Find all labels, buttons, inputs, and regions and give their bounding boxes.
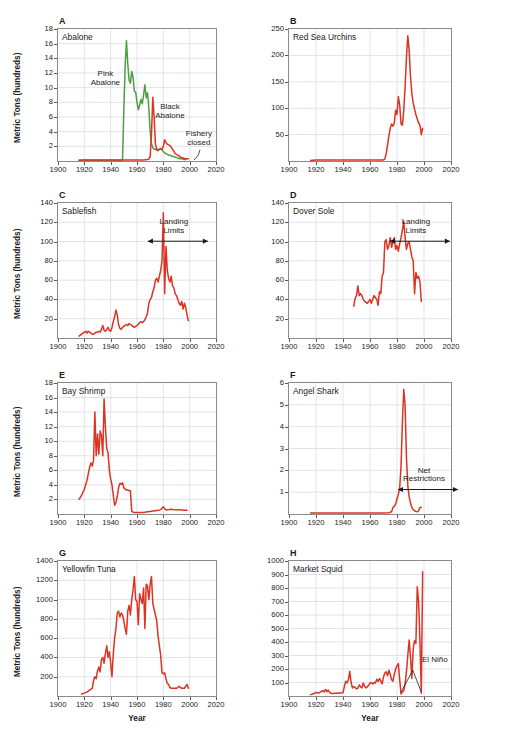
x-tick-label: 2020 bbox=[434, 343, 468, 351]
x-tick-mark bbox=[451, 162, 452, 165]
y-tick-mark bbox=[285, 405, 288, 406]
y-tick-label: 4 bbox=[19, 128, 53, 136]
x-tick-mark bbox=[424, 162, 425, 165]
x-tick-mark bbox=[289, 339, 290, 342]
y-tick-mark bbox=[285, 561, 288, 562]
x-tick-mark bbox=[289, 162, 290, 165]
x-axis-label: Year bbox=[288, 714, 452, 723]
y-tick-mark bbox=[285, 383, 288, 384]
y-tick-label: 200 bbox=[19, 673, 53, 681]
y-tick-mark bbox=[54, 117, 57, 118]
y-tick-mark bbox=[285, 588, 288, 589]
y-tick-mark bbox=[54, 58, 57, 59]
plot-area-b bbox=[288, 28, 452, 162]
y-tick-label: 100 bbox=[250, 679, 284, 687]
y-tick-label: 140 bbox=[250, 199, 284, 207]
x-tick-mark bbox=[316, 339, 317, 342]
plot-canvas-h bbox=[289, 561, 451, 696]
x-tick-mark bbox=[58, 697, 59, 700]
y-tick-label: 800 bbox=[19, 615, 53, 623]
annotation-label: El Niño bbox=[405, 656, 465, 665]
x-tick-mark bbox=[190, 339, 191, 342]
fisheries-landings-figure: AAbalone24681012141618190019201940196019… bbox=[0, 0, 511, 729]
y-tick-label: 400 bbox=[250, 638, 284, 646]
y-tick-label: 600 bbox=[19, 634, 53, 642]
x-tick-mark bbox=[163, 162, 164, 165]
y-tick-label: 500 bbox=[250, 625, 284, 633]
panel-letter-d: D bbox=[290, 190, 297, 200]
x-tick-mark bbox=[84, 339, 85, 342]
annotation-label: BlackAbalone bbox=[140, 103, 200, 121]
x-tick-mark bbox=[84, 162, 85, 165]
y-tick-label: 6 bbox=[19, 113, 53, 121]
y-tick-label: 12 bbox=[19, 69, 53, 77]
y-tick-label: 10 bbox=[19, 84, 53, 92]
y-tick-mark bbox=[54, 485, 57, 486]
x-tick-mark bbox=[190, 697, 191, 700]
panel-title-h: Market Squid bbox=[293, 564, 342, 574]
y-tick-mark bbox=[285, 108, 288, 109]
panel-letter-c: C bbox=[59, 190, 66, 200]
x-tick-mark bbox=[397, 515, 398, 518]
series-line bbox=[311, 572, 423, 695]
y-tick-mark bbox=[54, 102, 57, 103]
y-tick-label: 600 bbox=[250, 611, 284, 619]
x-tick-mark bbox=[190, 515, 191, 518]
x-tick-mark bbox=[216, 162, 217, 165]
y-tick-mark bbox=[285, 242, 288, 243]
x-tick-mark bbox=[316, 162, 317, 165]
y-tick-label: 80 bbox=[19, 257, 53, 265]
y-tick-label: 3 bbox=[250, 445, 284, 453]
panel-title-e: Bay Shrimp bbox=[62, 386, 105, 396]
plot-canvas-e bbox=[58, 383, 216, 514]
plot-area-f bbox=[288, 382, 452, 515]
annotation-line: Restrictions bbox=[394, 475, 454, 484]
x-tick-mark bbox=[343, 339, 344, 342]
y-tick-label: 8 bbox=[19, 452, 53, 460]
y-tick-mark bbox=[285, 280, 288, 281]
y-tick-mark bbox=[285, 135, 288, 136]
y-tick-label: 40 bbox=[250, 295, 284, 303]
x-tick-mark bbox=[111, 515, 112, 518]
panel-letter-f: F bbox=[290, 370, 296, 380]
x-tick-mark bbox=[216, 697, 217, 700]
y-tick-mark bbox=[54, 73, 57, 74]
y-tick-mark bbox=[54, 319, 57, 320]
y-tick-label: 2 bbox=[19, 495, 53, 503]
panel-letter-h: H bbox=[290, 548, 297, 558]
annotation-line: El Niño bbox=[405, 656, 465, 665]
x-tick-label: 2020 bbox=[199, 343, 233, 351]
y-tick-label: 1 bbox=[250, 488, 284, 496]
y-tick-label: 20 bbox=[250, 315, 284, 323]
y-tick-label: 1400 bbox=[19, 557, 53, 565]
x-tick-mark bbox=[137, 697, 138, 700]
y-tick-mark bbox=[54, 132, 57, 133]
x-tick-mark bbox=[289, 697, 290, 700]
plot-area-h bbox=[288, 560, 452, 697]
annotation-label: LandingLimits bbox=[144, 218, 204, 236]
annotation-label: NetRestrictions bbox=[394, 467, 454, 485]
y-tick-label: 1200 bbox=[19, 576, 53, 584]
panel-title-c: Sablefish bbox=[62, 206, 96, 216]
y-tick-label: 200 bbox=[250, 51, 284, 59]
x-axis-label: Year bbox=[57, 714, 217, 723]
y-tick-label: 120 bbox=[250, 218, 284, 226]
panel-title-f: Angel Shark bbox=[293, 386, 339, 396]
y-tick-label: 5 bbox=[250, 401, 284, 409]
x-tick-mark bbox=[370, 515, 371, 518]
x-tick-mark bbox=[424, 339, 425, 342]
annotation-line: Limits bbox=[386, 227, 446, 236]
annotation-line: Limits bbox=[144, 227, 204, 236]
y-tick-label: 80 bbox=[250, 257, 284, 265]
annotation-line: closed bbox=[169, 139, 229, 148]
x-tick-mark bbox=[190, 162, 191, 165]
x-tick-label: 2020 bbox=[434, 519, 468, 527]
plot-area-g bbox=[57, 560, 217, 697]
y-tick-mark bbox=[285, 642, 288, 643]
y-tick-label: 800 bbox=[250, 584, 284, 592]
y-tick-label: 120 bbox=[19, 218, 53, 226]
x-tick-label: 2020 bbox=[434, 701, 468, 709]
y-tick-mark bbox=[285, 629, 288, 630]
y-tick-label: 10 bbox=[19, 437, 53, 445]
x-tick-mark bbox=[163, 515, 164, 518]
